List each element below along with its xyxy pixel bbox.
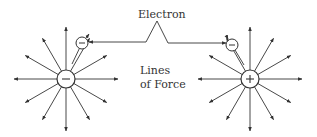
electron-right [226, 35, 244, 65]
field-line [258, 56, 291, 75]
field-line [209, 84, 242, 103]
field-lines-diagram: Electron Lines of Force [0, 0, 317, 137]
positive-charge [241, 70, 259, 88]
lines-of-force-label-line2: of Force [140, 78, 186, 91]
field-line [43, 87, 62, 120]
field-line [255, 87, 274, 120]
field-line [209, 56, 242, 75]
field-line [255, 38, 274, 71]
electron-leader-lines [89, 21, 226, 43]
field-line [43, 38, 62, 71]
motion-arrow-icon [86, 34, 89, 38]
field-line [74, 84, 107, 103]
field-line [25, 56, 58, 75]
field-line [71, 87, 90, 120]
lines-of-force-label-line1: Lines [140, 64, 170, 77]
electron-left [72, 34, 89, 64]
negative-charge [57, 70, 75, 88]
electron-label: Electron [138, 8, 186, 21]
field-line [227, 87, 246, 120]
field-line [74, 56, 107, 75]
field-line [258, 84, 291, 103]
field-line [25, 84, 58, 103]
